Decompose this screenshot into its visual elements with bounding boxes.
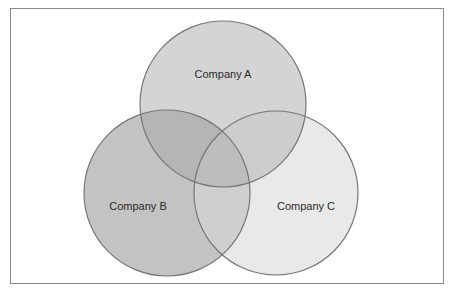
label-company-c: Company C (277, 200, 335, 212)
label-company-a: Company A (195, 68, 253, 80)
label-company-b: Company B (109, 200, 166, 212)
venn-diagram: Company A Company B Company C (0, 0, 451, 298)
